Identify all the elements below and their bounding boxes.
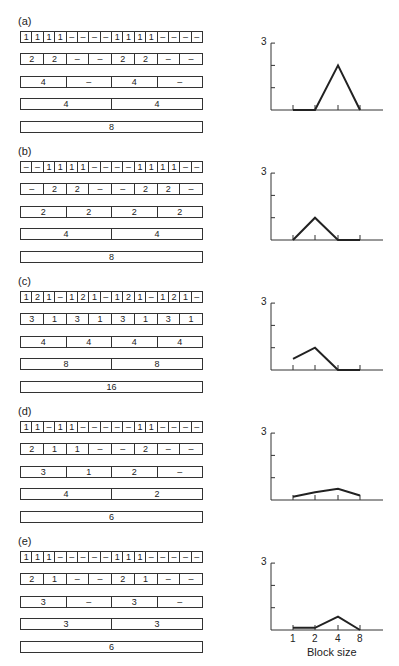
block-cell: 1 <box>122 552 133 562</box>
block-row-level-4: 16 <box>20 381 203 393</box>
block-cell: – <box>191 32 202 42</box>
block-cell: 4 <box>21 337 66 347</box>
block-row-level-0: ––1111––––1111–– <box>20 161 203 173</box>
data-line <box>293 489 360 497</box>
block-cell: 1 <box>179 292 190 302</box>
block-cell: – <box>66 574 89 584</box>
block-cell: 6 <box>21 642 202 652</box>
block-cell: 1 <box>43 574 66 584</box>
block-cell: – <box>54 292 65 302</box>
block-cell: 1 <box>43 552 54 562</box>
block-cell: 8 <box>21 359 111 369</box>
block-cell: – <box>88 422 99 432</box>
block-row-level-3: 44 <box>20 98 203 110</box>
block-cell: 1 <box>43 444 66 454</box>
block-cell: 1 <box>54 422 65 432</box>
block-row-level-1: 31313131 <box>20 313 203 325</box>
block-cell: – <box>122 422 133 432</box>
block-cell: 1 <box>134 314 157 324</box>
block-row-level-0: 1111––––1111–––– <box>20 31 203 43</box>
block-cell: 1 <box>21 292 31 302</box>
block-row-level-2: 2222 <box>20 206 203 218</box>
block-cell: – <box>157 77 203 87</box>
panel-label: (e) <box>18 535 31 547</box>
block-cell: 6 <box>21 512 202 522</box>
block-cell: 4 <box>157 337 203 347</box>
block-cell: – <box>145 292 156 302</box>
block-cell: 1 <box>134 552 145 562</box>
block-row-level-4: 8 <box>20 251 203 263</box>
block-cell: 3 <box>21 597 66 607</box>
block-cell: 1 <box>66 162 77 172</box>
block-cell: 4 <box>21 77 66 87</box>
block-row-level-3: 44 <box>20 228 203 240</box>
block-cell: 2 <box>21 54 43 64</box>
block-row-level-2: 4444 <box>20 336 203 348</box>
block-cell: – <box>66 32 77 42</box>
block-cell: – <box>157 574 180 584</box>
block-cell: – <box>77 32 88 42</box>
block-cell: – <box>88 54 111 64</box>
block-cell: 1 <box>31 32 42 42</box>
block-cell: 3 <box>66 314 89 324</box>
block-cell: 1 <box>157 162 168 172</box>
block-cell: 1 <box>88 292 99 302</box>
block-cell: 1 <box>134 162 145 172</box>
block-cell: 1 <box>157 292 168 302</box>
data-line <box>293 617 360 630</box>
line-graph: 3 <box>255 405 399 535</box>
block-cell: 2 <box>168 292 179 302</box>
block-cell: – <box>66 597 112 607</box>
block-cell: 2 <box>111 489 202 499</box>
block-cell: – <box>168 552 179 562</box>
line-graph: 31248Block size <box>255 535 399 665</box>
block-cell: 4 <box>21 99 111 109</box>
block-cell: 2 <box>134 184 157 194</box>
y-max-label: 3 <box>261 296 267 307</box>
block-cell: – <box>179 184 202 194</box>
block-cell: 1 <box>145 422 156 432</box>
block-cell: 3 <box>21 619 111 629</box>
block-cell: 1 <box>66 467 112 477</box>
block-cell: – <box>21 162 31 172</box>
block-cell: 2 <box>21 444 43 454</box>
block-cell: – <box>157 54 180 64</box>
block-cell: – <box>88 162 99 172</box>
block-cell: 2 <box>31 292 42 302</box>
block-cell: 2 <box>134 444 157 454</box>
block-cell: 1 <box>43 292 54 302</box>
block-row-level-3: 33 <box>20 618 203 630</box>
block-cell: – <box>77 422 88 432</box>
block-cell: – <box>179 422 190 432</box>
block-cell: 1 <box>111 292 122 302</box>
block-cell: – <box>168 422 179 432</box>
block-row-level-1: 211––2–– <box>20 443 203 455</box>
block-cell: 16 <box>21 382 202 392</box>
block-cell: 2 <box>134 54 157 64</box>
block-cell: 1 <box>122 32 133 42</box>
block-cell: – <box>191 292 202 302</box>
block-cell: 2 <box>111 54 134 64</box>
block-cell: – <box>100 32 111 42</box>
block-cell: 1 <box>43 314 66 324</box>
block-cell: 1 <box>134 574 157 584</box>
block-cell: 8 <box>21 252 202 262</box>
block-cell: – <box>122 162 133 172</box>
block-cell: – <box>77 552 88 562</box>
block-cell: 1 <box>111 552 122 562</box>
block-row-level-2: 3–3– <box>20 596 203 608</box>
block-cell: 1 <box>179 314 202 324</box>
block-cell: – <box>100 292 111 302</box>
y-max-label: 3 <box>261 36 267 47</box>
block-cell: – <box>179 574 202 584</box>
block-cell: 4 <box>21 489 111 499</box>
block-cell: – <box>191 422 202 432</box>
block-cell: 2 <box>111 207 157 217</box>
block-cell: 1 <box>77 162 88 172</box>
block-cell: 1 <box>66 292 77 302</box>
block-row-level-0: 111–––––111––––– <box>20 551 203 563</box>
block-cell: 2 <box>66 184 89 194</box>
block-cell: – <box>145 552 156 562</box>
block-cell: – <box>179 162 190 172</box>
block-cell: – <box>100 162 111 172</box>
